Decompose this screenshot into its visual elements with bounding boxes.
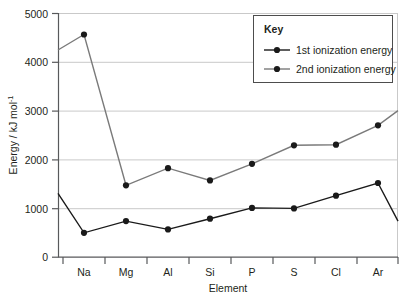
data-point-1st-na (81, 230, 87, 236)
y-tick-label-2000: 2000 (25, 154, 49, 166)
y-tick-label-5000: 5000 (25, 8, 49, 20)
x-tick-label-p: P (248, 266, 255, 278)
x-tick-label-ar: Ar (373, 266, 384, 278)
data-point-2nd-al (165, 165, 171, 171)
legend-swatch-marker-1st (274, 47, 280, 53)
x-tick-label-s: S (290, 266, 297, 278)
y-axis-title: Energy / kJ mol-1 (6, 96, 19, 175)
x-tick-label-na: Na (77, 266, 91, 278)
data-point-2nd-na (81, 31, 87, 37)
y-tick-label-0: 0 (42, 251, 48, 263)
y-axis-ticks (52, 14, 58, 258)
legend-label-2nd: 2nd ionization energy (296, 63, 397, 75)
legend-title: Key (264, 23, 283, 35)
legend-swatch-marker-2nd (274, 66, 280, 72)
legend-label-1st: 1st ionization energy (296, 44, 393, 56)
y-tick-label-4000: 4000 (25, 56, 49, 68)
chart-canvas: 5000 4000 3000 2000 1000 0 Na Mg Al Si P… (0, 0, 407, 297)
data-point-1st-al (165, 226, 171, 232)
x-tick-label-cl: Cl (331, 266, 341, 278)
data-point-2nd-si (207, 177, 213, 183)
x-tick-label-si: Si (205, 266, 214, 278)
data-point-1st-si (207, 216, 213, 222)
data-point-1st-cl (333, 193, 339, 199)
data-point-1st-s (291, 205, 297, 211)
y-tick-label-3000: 3000 (25, 105, 49, 117)
y-axis-title-group: Energy / kJ mol-1 (6, 96, 19, 175)
data-point-1st-p (249, 205, 255, 211)
data-point-2nd-s (291, 142, 297, 148)
legend: Key 1st ionization energy 2nd ionization… (254, 16, 397, 83)
data-point-2nd-cl (333, 142, 339, 148)
x-tick-label-al: Al (163, 266, 172, 278)
x-axis-title: Element (209, 282, 248, 294)
x-axis-ticks (63, 257, 398, 264)
data-point-1st-ar (375, 180, 381, 186)
y-tick-label-1000: 1000 (25, 203, 49, 215)
data-point-2nd-mg (123, 182, 129, 188)
x-tick-label-mg: Mg (119, 266, 134, 278)
data-point-2nd-p (249, 161, 255, 167)
ionization-energy-chart: 5000 4000 3000 2000 1000 0 Na Mg Al Si P… (0, 0, 407, 297)
y-axis-title-exponent: -1 (6, 96, 15, 102)
y-axis-title-text: Energy / kJ mol (7, 102, 19, 174)
data-point-2nd-ar (375, 122, 381, 128)
data-point-1st-mg (123, 218, 129, 224)
